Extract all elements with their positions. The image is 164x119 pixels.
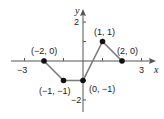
point-label-neg2-0: (−2, 0) xyxy=(31,46,57,56)
graph: −3 3 2 −2 x y (−2, 0) (−1, −1) (0, −1) (… xyxy=(0,0,164,119)
point-label-2-0: (2, 0) xyxy=(117,46,138,56)
x-tick-label-neg3: −3 xyxy=(17,65,27,75)
point-2-0 xyxy=(119,58,125,64)
point-label-1-1: (1, 1) xyxy=(94,27,115,37)
point-neg2-0 xyxy=(41,58,47,64)
point-label-neg1-neg1: (−1, −1) xyxy=(39,86,71,96)
y-axis-label: y xyxy=(74,5,80,16)
y-axis-arrow-icon xyxy=(80,9,86,16)
point-label-0-neg1: (0, −1) xyxy=(89,84,115,94)
point-0-neg1 xyxy=(80,78,86,84)
point-neg1-neg1 xyxy=(61,78,67,84)
y-tick-label-neg2: −2 xyxy=(71,95,81,105)
x-tick-label-3: 3 xyxy=(139,65,144,75)
x-axis-label: x xyxy=(153,64,159,75)
point-1-1 xyxy=(100,39,106,45)
y-tick-label-2: 2 xyxy=(74,17,79,27)
